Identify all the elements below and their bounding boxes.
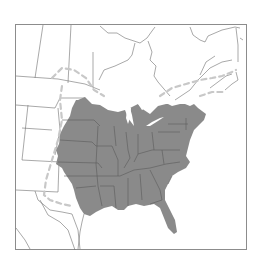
map-canvas [0, 0, 261, 257]
range-map [0, 0, 261, 257]
